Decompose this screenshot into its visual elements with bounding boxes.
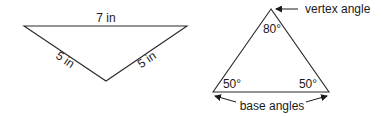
base-angle-right-arrow bbox=[306, 96, 327, 102]
right-triangle: 80° 50° 50° vertex angle base angles bbox=[213, 2, 371, 113]
top-side-label: 7 in bbox=[96, 11, 115, 25]
left-triangle-shape bbox=[24, 26, 187, 81]
vertex-angle-value: 80° bbox=[263, 22, 281, 36]
base-angle-left-value: 50° bbox=[223, 77, 241, 91]
left-triangle: 7 in 5 in 5 in bbox=[24, 11, 187, 81]
isosceles-triangles-diagram: 7 in 5 in 5 in 80° 50° 50° vertex angle … bbox=[0, 0, 382, 116]
left-side-label: 5 in bbox=[53, 48, 77, 70]
base-angles-caption: base angles bbox=[240, 99, 305, 113]
right-side-label: 5 in bbox=[135, 48, 159, 70]
base-angle-left-arrow bbox=[215, 96, 236, 102]
base-angle-right-value: 50° bbox=[299, 77, 317, 91]
vertex-angle-caption: vertex angle bbox=[305, 2, 371, 16]
